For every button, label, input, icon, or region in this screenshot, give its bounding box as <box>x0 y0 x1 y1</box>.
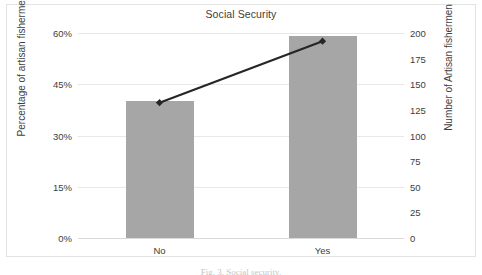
left-tick-label: 30% <box>12 130 72 141</box>
figure: Social Security Percentage of artisan fi… <box>0 0 482 275</box>
left-tick-label: 15% <box>12 181 72 192</box>
line-marker <box>319 38 326 45</box>
right-tick-label: 125 <box>410 104 452 115</box>
left-tick-label: 0% <box>12 233 72 244</box>
right-axis-ticks: 0255075100125150175200 <box>410 33 452 238</box>
chart-title: Social Security <box>0 8 482 20</box>
x-tick-label: No <box>100 245 220 256</box>
figure-caption: Fig. 3. Social security. <box>0 265 482 275</box>
right-tick-label: 50 <box>410 181 452 192</box>
right-tick-label: 150 <box>410 79 452 90</box>
line-path <box>160 41 323 102</box>
line-marker <box>156 99 163 106</box>
right-tick-label: 175 <box>410 53 452 64</box>
left-tick-label: 45% <box>12 79 72 90</box>
right-tick-label: 25 <box>410 207 452 218</box>
right-tick-label: 75 <box>410 156 452 167</box>
right-tick-label: 200 <box>410 28 452 39</box>
left-tick-label: 60% <box>12 28 72 39</box>
right-tick-label: 0 <box>410 233 452 244</box>
x-tick-label: Yes <box>263 245 383 256</box>
line-series <box>78 33 404 238</box>
plot-area <box>78 33 404 238</box>
axis-baseline <box>78 238 404 239</box>
right-tick-label: 100 <box>410 130 452 141</box>
left-axis-ticks: 0%15%30%45%60% <box>8 33 72 238</box>
